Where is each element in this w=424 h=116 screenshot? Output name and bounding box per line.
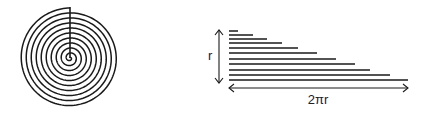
height-label: r (208, 48, 213, 63)
width-arrow (229, 84, 408, 92)
height-arrow (215, 30, 223, 83)
width-label: 2πr (308, 92, 329, 107)
unrolled-strips-triangle (229, 31, 408, 80)
circle-area-diagram: r 2πr (0, 0, 424, 116)
spiral-circle (21, 8, 116, 106)
